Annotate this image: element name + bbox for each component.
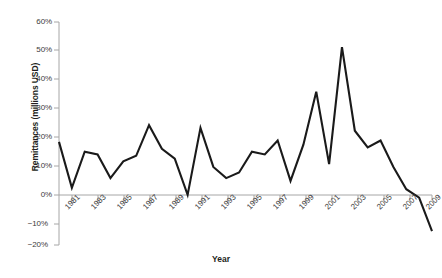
axis-group — [54, 22, 432, 245]
y-axis-title: Remittances (millions USD) — [30, 37, 40, 197]
y-tick-label-60: 60% — [18, 17, 52, 26]
y-tick-label-neg20: −20% — [14, 240, 48, 249]
chart-plot-area — [0, 0, 442, 278]
y-tick-label-neg10: −10% — [14, 219, 48, 228]
y-tick-marks — [54, 22, 59, 245]
chart-container: 60% 50% 40% 30% 20% 10% 0% −10% −20% 198… — [0, 0, 442, 278]
x-axis-title: Year — [0, 254, 442, 264]
